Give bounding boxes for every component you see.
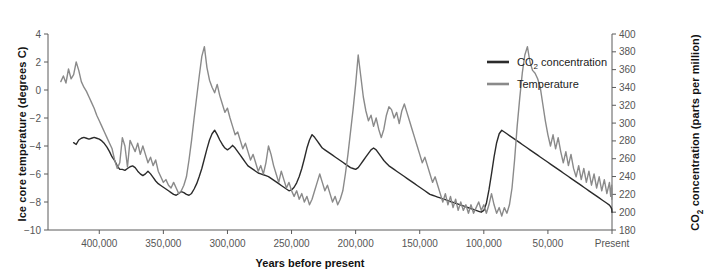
y-tick-label-left: 2 (35, 57, 41, 68)
y-tick-label-right: 240 (619, 171, 636, 182)
y-tick-label-right: 280 (619, 135, 636, 146)
x-tick-label: 200,000 (338, 238, 375, 249)
y-tick-label-left: −2 (30, 113, 42, 124)
y-tick-label-right: 220 (619, 189, 636, 200)
x-axis-title: Years before present (0, 257, 620, 269)
x-tick-label: 50,000 (533, 238, 564, 249)
y-tick-label-left: −4 (30, 141, 42, 152)
y-tick-label-right: 320 (619, 100, 636, 111)
x-tick-label: 400,000 (81, 238, 118, 249)
x-tick-label: 350,000 (145, 238, 182, 249)
y-tick-label-left: 0 (35, 85, 41, 96)
y-tick-label-right: 380 (619, 46, 636, 57)
y-tick-label-right: 340 (619, 82, 636, 93)
y-tick-label-right: 180 (619, 225, 636, 236)
y-axis-right-title: CO2 concentration (parts per million) (689, 8, 704, 258)
y-tick-label-left: −6 (30, 169, 42, 180)
y-tick-label-right: 360 (619, 64, 636, 75)
x-tick-label: Present (595, 238, 630, 249)
y-tick-label-right: 260 (619, 153, 636, 164)
x-tick-label: 250,000 (273, 238, 310, 249)
y-tick-label-right: 300 (619, 118, 636, 129)
x-tick-label: 150,000 (402, 238, 439, 249)
x-tick-label: 300,000 (209, 238, 246, 249)
y-axis-left-title: Ice core temperature (degrees C) (16, 24, 28, 244)
y-tick-label-right: 400 (619, 29, 636, 40)
y-tick-label-left: 4 (35, 29, 41, 40)
y-tick-label-right: 200 (619, 207, 636, 218)
y-tick-label-left: −8 (30, 197, 42, 208)
legend-label: Temperature (517, 78, 579, 90)
x-tick-label: 100,000 (466, 238, 503, 249)
